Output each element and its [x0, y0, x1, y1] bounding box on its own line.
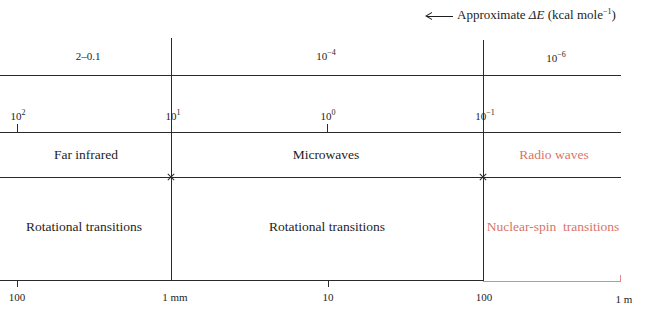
divider-100mm	[483, 40, 484, 281]
band-radio-waves: Radio waves	[519, 147, 588, 163]
energy-row-line	[0, 75, 621, 76]
band-microwaves: Microwaves	[293, 147, 360, 163]
delta-e-symbol: ΔE	[529, 7, 545, 22]
wavenumber-label-1: 102	[11, 110, 26, 122]
energy-label-microwave: 10−4	[316, 50, 336, 62]
wavelength-tick	[328, 281, 329, 287]
transition-microwave: Rotational transitions	[269, 219, 385, 235]
title-unit-close: )	[611, 7, 615, 22]
title-unit: (kcal mole	[544, 7, 602, 22]
band-row-line	[0, 177, 621, 178]
wavenumber-label-4: 10−1	[475, 110, 495, 122]
wavelength-label-2: 1 mm	[162, 291, 187, 303]
wavelength-tick	[17, 281, 18, 287]
cross-marker-icon	[480, 174, 487, 181]
wavelength-label-3: 10	[323, 291, 334, 303]
energy-axis-title: Approximate ΔE (kcal mole−1)	[425, 7, 616, 23]
wavelength-label-4: 100	[476, 291, 493, 303]
wavenumber-row-line	[0, 132, 621, 133]
wavelength-label-1: 100	[9, 291, 26, 303]
wavenumber-label-2: 101	[166, 110, 181, 122]
wavelength-axis-line	[0, 280, 483, 281]
wavenumber-tick	[327, 124, 328, 132]
wavelength-axis-line-radio	[483, 281, 621, 282]
title-prefix: Approximate	[457, 7, 529, 22]
wavenumber-label-3: 100	[321, 110, 336, 122]
wavenumber-tick	[17, 124, 18, 132]
band-far-infrared: Far infrared	[54, 147, 118, 163]
cross-marker-icon	[168, 174, 175, 181]
transition-far-ir: Rotational transitions	[26, 219, 142, 235]
wavelength-tick	[620, 275, 621, 282]
wavelength-label-5: 1 m	[616, 293, 633, 305]
energy-label-far-ir: 2–0.1	[76, 50, 101, 62]
energy-label-radio: 10−6	[546, 52, 566, 64]
left-arrow-icon	[425, 11, 453, 21]
transition-radio: Nuclear-spin transitions	[487, 219, 619, 235]
